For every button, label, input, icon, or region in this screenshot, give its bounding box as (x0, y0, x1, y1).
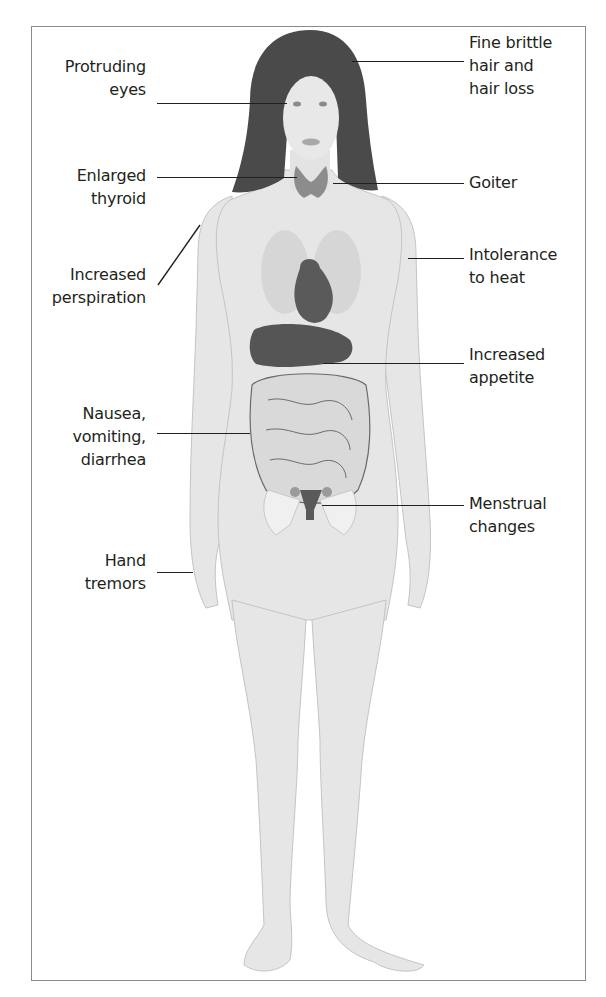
leader-line-increased-appetite (323, 363, 464, 364)
label-intolerance-to-heat: Intolerance to heat (469, 243, 557, 289)
leader-line-goiter (333, 183, 464, 184)
leader-line-increased-perspiration (150, 220, 210, 290)
leader-line-protruding-eyes (157, 103, 287, 104)
left-eye (293, 102, 301, 107)
lips (302, 139, 320, 146)
label-menstrual-changes: Menstrual changes (469, 492, 547, 538)
right-leg (312, 600, 424, 971)
face (283, 76, 339, 160)
label-enlarged-thyroid: Enlarged thyroid (77, 164, 146, 210)
leader-line-menstrual-changes (322, 505, 464, 506)
intestines (250, 374, 370, 503)
label-nausea-vomiting-diarrhea: Nausea, vomiting, diarrhea (72, 402, 146, 471)
leader-line-hand-tremors (157, 572, 193, 573)
label-protruding-eyes: Protruding eyes (65, 55, 146, 101)
label-increased-perspiration: Increased perspiration (52, 263, 146, 309)
label-increased-appetite: Increased appetite (469, 343, 545, 389)
leader-line-fine-brittle-hair (352, 61, 464, 62)
label-fine-brittle-hair: Fine brittle hair and hair loss (469, 31, 552, 100)
left-leg (232, 600, 306, 971)
body-silhouette (190, 30, 431, 971)
label-goiter: Goiter (469, 171, 517, 194)
right-eye (319, 102, 327, 107)
leader-line-enlarged-thyroid (157, 177, 297, 178)
leader-line-nausea (157, 433, 250, 434)
label-hand-tremors: Hand tremors (85, 549, 146, 595)
leader-line-intolerance-to-heat (408, 258, 464, 259)
